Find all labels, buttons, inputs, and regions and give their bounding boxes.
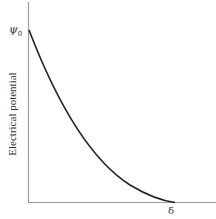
potential-curve xyxy=(29,30,175,203)
psi0-label: ψ0 xyxy=(9,23,22,38)
potential-plot xyxy=(0,0,216,219)
y-axis-label: Electrical potential xyxy=(6,64,18,164)
delta-label: δ xyxy=(168,205,174,216)
